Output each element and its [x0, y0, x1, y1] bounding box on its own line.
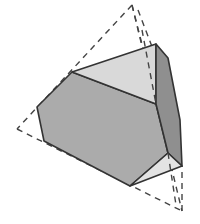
truncated-tetrahedron-diagram: [0, 0, 200, 224]
solid-faces: [37, 44, 182, 186]
